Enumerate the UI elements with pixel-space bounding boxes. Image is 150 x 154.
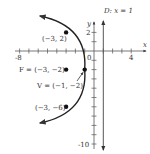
y-axis-label: y: [86, 20, 92, 28]
vertex-marker: [83, 67, 87, 71]
x-tick-label-neg8: -8: [15, 54, 22, 62]
x-tick-label-4: 4: [129, 54, 134, 62]
y-tick-label-2: 2: [86, 29, 90, 37]
vertex-pointer-arrow: [77, 73, 83, 82]
directrix-label: D: x = 1: [103, 7, 133, 15]
point-bottom-label: (−3, −6): [35, 104, 66, 112]
vertex-label: V = (−1, −2): [36, 82, 83, 90]
focus-label: F = (−3, −2): [19, 66, 65, 74]
point-top-marker: [64, 30, 68, 34]
x-tick-label-0: 0: [87, 54, 91, 62]
directrix: D: x = 1: [103, 7, 133, 150]
x-axis-label: x: [143, 41, 147, 49]
parabola-diagram: x -8 0 4 y 2 -10 D: x = 1: [0, 0, 150, 154]
point-top-label: (−3, 2): [42, 35, 67, 43]
y-tick-label-neg10: -10: [78, 141, 89, 149]
